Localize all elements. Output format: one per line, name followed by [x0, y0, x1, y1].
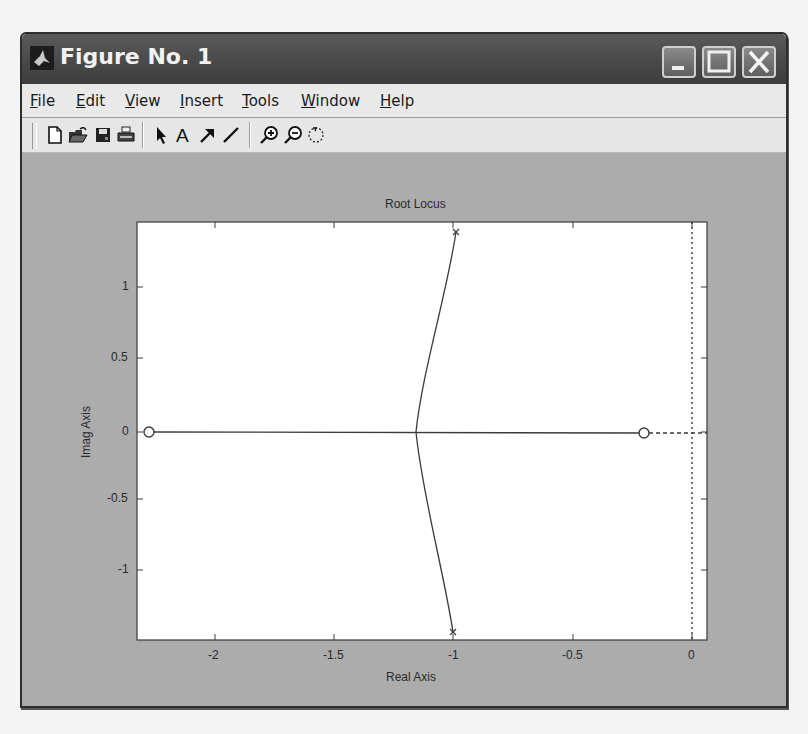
title-bar[interactable]: Figure No. 1 [22, 34, 786, 84]
matlab-logo-icon [30, 46, 54, 70]
open-folder-icon [67, 125, 89, 145]
menu-file[interactable]: File [30, 92, 55, 110]
menu-view[interactable]: View [125, 92, 161, 110]
axes-box [137, 222, 707, 640]
zoom-in-icon [259, 125, 279, 145]
save-figure-button[interactable] [92, 123, 114, 147]
rotate-icon [306, 125, 326, 145]
menu-tools[interactable]: Tools [242, 92, 279, 110]
maximize-button[interactable] [702, 46, 736, 78]
xtick-label: -1 [448, 648, 459, 662]
close-icon [744, 48, 774, 76]
ytick-label: 0 [122, 424, 129, 438]
toolbar: A [22, 118, 786, 153]
insert-line-button[interactable] [220, 123, 242, 147]
new-figure-button[interactable] [44, 123, 66, 147]
edit-plot-button[interactable] [150, 123, 172, 147]
save-disk-icon [94, 126, 112, 144]
arrow-icon [197, 125, 217, 145]
insert-text-button[interactable]: A [172, 123, 194, 147]
menu-window[interactable]: Window [301, 92, 360, 110]
menu-edit[interactable]: Edit [76, 92, 105, 110]
print-figure-button[interactable] [115, 123, 137, 147]
menu-bar: File Edit View Insert Tools Window Help [22, 84, 786, 118]
close-button[interactable] [742, 46, 776, 78]
menu-insert[interactable]: Insert [180, 92, 223, 110]
zoom-out-button[interactable] [282, 123, 304, 147]
minimize-button[interactable] [662, 46, 696, 78]
zero-marker-right[interactable] [639, 428, 649, 438]
xtick-label: -2 [208, 648, 219, 662]
toolbar-separator [249, 122, 251, 148]
ytick-label: 1 [122, 279, 129, 293]
figure-window: Figure No. 1 File Edit View Insert Tools… [20, 32, 788, 708]
text-A-icon: A [173, 125, 193, 145]
ytick-label: -0.5 [107, 491, 128, 505]
x-axis-label: Real Axis [386, 670, 436, 684]
zero-marker-left[interactable] [144, 427, 154, 437]
y-axis-label: Imag Axis [79, 406, 93, 458]
insert-arrow-button[interactable] [196, 123, 218, 147]
zoom-out-icon [283, 125, 303, 145]
maximize-icon [704, 48, 734, 76]
arrow-pointer-icon [153, 125, 169, 145]
printer-icon [116, 125, 136, 145]
line-icon [221, 125, 241, 145]
xtick-label: 0 [688, 648, 695, 662]
ytick-label: -1 [118, 562, 129, 576]
toolbar-grip[interactable] [32, 123, 37, 149]
zoom-in-button[interactable] [258, 123, 280, 147]
toolbar-separator [142, 122, 144, 148]
ytick-label: 0.5 [111, 350, 128, 364]
menu-help[interactable]: Help [380, 92, 414, 110]
window-title: Figure No. 1 [60, 44, 212, 69]
xtick-label: -0.5 [562, 648, 583, 662]
new-document-icon [46, 125, 64, 145]
open-file-button[interactable] [67, 123, 89, 147]
svg-text:A: A [176, 125, 189, 145]
rotate-3d-button[interactable] [305, 123, 327, 147]
minimize-icon [664, 48, 694, 76]
figure-canvas: Root Locus [22, 153, 786, 706]
xtick-label: -1.5 [323, 648, 344, 662]
root-locus-plot[interactable] [22, 153, 786, 707]
